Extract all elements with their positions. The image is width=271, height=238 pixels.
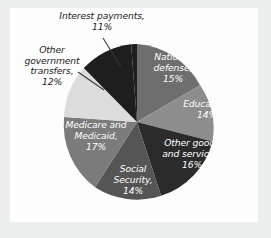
pie-label-medicare-and-medicaid: Medicare and Medicaid, 17%: [56, 120, 136, 152]
pie-label-education: Education, 14%: [174, 99, 240, 121]
pie-label-social-security: Social Security, 14%: [104, 164, 162, 196]
pie-label-national-defense: National defense, 15%: [142, 52, 204, 84]
pie-label-other-goods-and-services: Other goods and services, 16%: [152, 138, 232, 170]
pie-label-other-government-transfers: Other government transfers, 12%: [6, 45, 98, 87]
pie-chart-figure: Interest payments, 11% Other government …: [0, 0, 271, 238]
pie-label-interest-payments: Interest payments, 11%: [44, 11, 160, 32]
